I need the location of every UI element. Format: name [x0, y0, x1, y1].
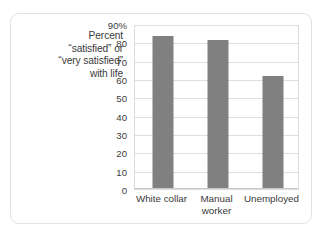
x-axis-category-label-line: Manual [186, 193, 247, 205]
x-axis-category-label-line: Unemployed [241, 193, 302, 205]
y-axis-tick-label: 80 [116, 38, 127, 49]
y-axis-tick-label: 10 [116, 166, 127, 177]
bar-slot [135, 25, 190, 188]
y-axis-tick-label: 70 [116, 56, 127, 67]
y-axis-tick-label: 60 [116, 75, 127, 86]
x-axis-category-labels: White collarManualworkerUnemployed [134, 193, 299, 223]
y-axis-tick-labels: 0102030405060708090% [97, 25, 130, 190]
x-axis-category-label-line: White collar [131, 193, 192, 205]
y-axis-tick-label: 20 [116, 148, 127, 159]
bar[interactable] [207, 40, 228, 189]
y-axis-tick-label: 30 [116, 130, 127, 141]
plot-area [134, 25, 299, 190]
x-axis-category-label: Unemployed [241, 193, 302, 205]
chart-card: Percent “satisfied” or “very satisfied” … [10, 13, 312, 224]
bar-slot [190, 25, 245, 188]
x-axis-category-label-line: worker [186, 205, 247, 217]
bar-slot [245, 25, 300, 188]
y-axis-tick-label: 40 [116, 111, 127, 122]
y-axis-tick-label: 90% [108, 20, 127, 31]
x-axis-category-label: Manualworker [186, 193, 247, 216]
x-axis-category-label: White collar [131, 193, 192, 205]
bar[interactable] [152, 36, 173, 188]
y-axis-tick-label: 50 [116, 93, 127, 104]
bar[interactable] [262, 76, 283, 188]
y-axis-tick-label: 0 [122, 185, 127, 196]
bar-series [135, 26, 298, 189]
